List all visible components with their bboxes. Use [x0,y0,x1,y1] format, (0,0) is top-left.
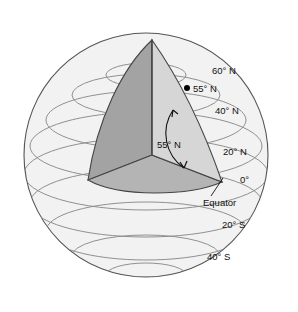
label-40n: 40° N [215,105,239,116]
label-20n: 20° N [223,146,247,157]
globe-svg: 60° N 55° N 40° N 20° N 0° Equator 20° S… [0,0,298,312]
point-marker-55n-group [184,85,190,91]
label-angle-55n: 55° N [157,139,181,150]
label-equator: Equator [203,197,236,208]
label-20s: 20° S [222,219,245,230]
label-0: 0° [240,174,249,185]
label-60n: 60° N [212,65,236,76]
globe-latitude-diagram: 60° N 55° N 40° N 20° N 0° Equator 20° S… [0,0,298,312]
label-55n-point: 55° N [193,83,217,94]
label-40s: 40° S [207,251,230,262]
point-marker-55n-dot [184,85,190,91]
